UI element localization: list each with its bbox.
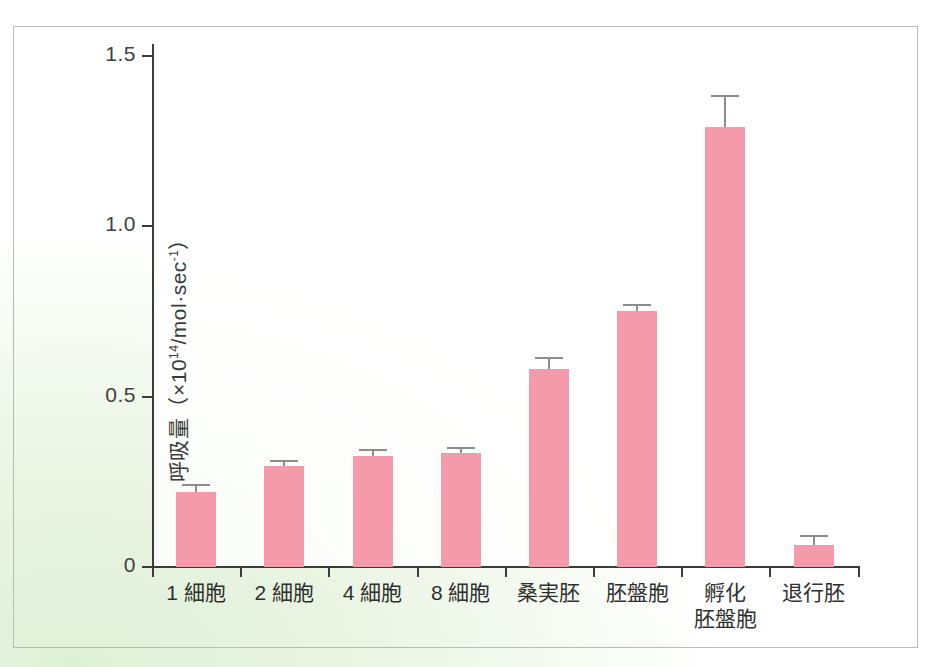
x-category-label-2: 4 細胞 [328,580,416,606]
y-tick-label-1: 0.5 [78,383,136,407]
y-tick-2 [142,225,152,227]
y-tick-label-2: 1.0 [78,212,136,236]
x-category-label-3: 8 細胞 [417,580,505,606]
y-tick-label-0: 0 [78,553,136,577]
error-bar-cap-0 [182,484,210,486]
error-bar-cap-2 [359,449,387,451]
error-bar-cap-1 [270,460,298,462]
bar-5 [617,311,657,567]
x-tick-5 [593,566,595,577]
error-bar-cap-5 [623,304,651,306]
y-title-exponent: 14 [167,345,181,359]
x-category-label-0: 1 細胞 [152,580,240,606]
y-axis-line [152,44,154,569]
x-tick-3 [417,566,419,577]
bar-3 [441,453,481,567]
y-tick-label-3: 1.5 [78,42,136,66]
y-tick-0 [142,566,152,568]
error-bar-cap-7 [800,535,828,537]
y-tick-3 [142,55,152,57]
error-bar-cap-3 [447,447,475,449]
error-bar-line-6 [724,95,726,127]
x-category-label-4: 桑実胚 [505,580,593,606]
x-tick-6 [681,566,683,577]
bar-7 [794,545,834,567]
bar-6 [705,127,745,567]
bar-4 [529,369,569,567]
x-tick-1 [240,566,242,577]
error-bar-cap-6 [711,95,739,97]
bar-1 [264,466,304,567]
error-bar-cap-4 [535,357,563,359]
x-category-label-6: 孵化 胚盤胞 [681,580,769,632]
x-tick-2 [328,566,330,577]
x-tick-0 [152,566,154,577]
x-tick-7 [769,566,771,577]
x-category-label-7: 退行胚 [769,580,857,606]
figure-canvas: 呼吸量（×1014/mol·sec-1） 00.51.01.5 1 細胞2 細胞… [0,0,934,667]
x-category-label-5: 胚盤胞 [593,580,681,606]
x-category-label-1: 2 細胞 [240,580,328,606]
x-tick-8 [858,566,860,577]
bar-2 [353,456,393,567]
y-tick-1 [142,396,152,398]
plot-area: 呼吸量（×1014/mol·sec-1） [152,40,857,567]
x-tick-4 [505,566,507,577]
bar-0 [176,492,216,567]
y-title-exponent-2: -1 [167,250,181,262]
